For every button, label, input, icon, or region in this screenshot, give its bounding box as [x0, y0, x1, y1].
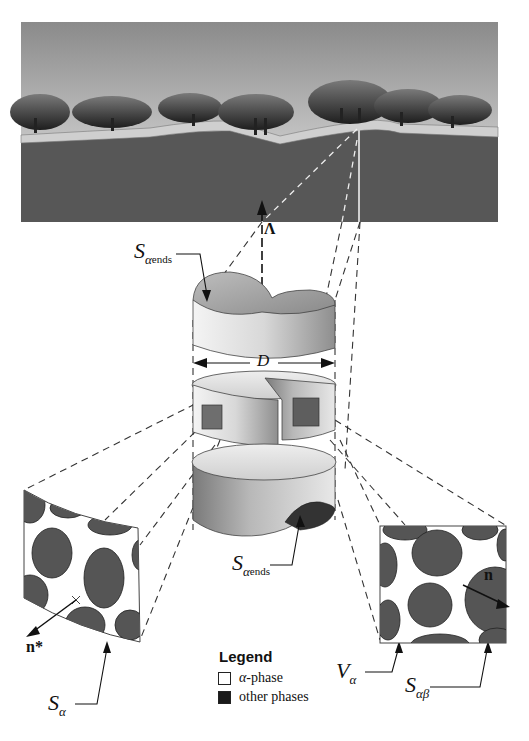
n-label: n: [484, 566, 493, 584]
s-alpha-label: Sα: [48, 690, 66, 716]
label-main: S: [48, 690, 59, 715]
lambda-text: Λ: [264, 220, 275, 237]
legend-swatch-white: [218, 672, 231, 685]
landscape-panel: [10, 22, 498, 222]
lambda-label: Λ: [264, 220, 275, 238]
cylinder-middle: [192, 371, 336, 447]
legend-title: Legend: [219, 648, 272, 665]
left-sample-box: [12, 487, 148, 643]
s-alpha-ends-bottom-label: Sαends: [232, 550, 270, 576]
diameter-label: D: [257, 351, 269, 371]
label-sub: α: [243, 564, 250, 579]
label-main: V: [336, 658, 349, 683]
n-star-label: n*: [26, 638, 43, 656]
label-sub: α: [59, 704, 66, 719]
legend-swatch-black: [218, 691, 231, 704]
label-main: S: [134, 238, 145, 263]
legend-item-label: -phase: [246, 670, 283, 685]
diagram-stage: Λ D Sαends Sαends Sα Vα Sαβ n* n Legend …: [0, 0, 529, 741]
label-sub: α: [145, 252, 152, 267]
cylinder-top: [193, 272, 335, 358]
s-alpha-beta-label: Sαβ: [405, 672, 429, 698]
arrowhead-icon: [103, 641, 111, 653]
label-sub: αβ: [416, 686, 429, 701]
legend-item-label: other phases: [239, 689, 309, 705]
s-alpha-ends-top-label: Sαends: [134, 238, 172, 264]
label-sub: α: [349, 672, 356, 687]
legend-item-text: α-phase: [239, 670, 283, 686]
legend-item-alpha-phase: α-phase: [218, 670, 283, 686]
label-main: S: [405, 672, 416, 697]
v-alpha-label: Vα: [336, 658, 356, 684]
label-main: S: [232, 550, 243, 575]
legend-item-other-phases: other phases: [218, 689, 309, 705]
label-subsub: ends: [250, 565, 270, 577]
label-subsub: ends: [152, 253, 172, 265]
cylinder-bottom: [192, 444, 336, 536]
diameter-text: D: [257, 351, 269, 370]
right-sample-box: [373, 520, 525, 658]
